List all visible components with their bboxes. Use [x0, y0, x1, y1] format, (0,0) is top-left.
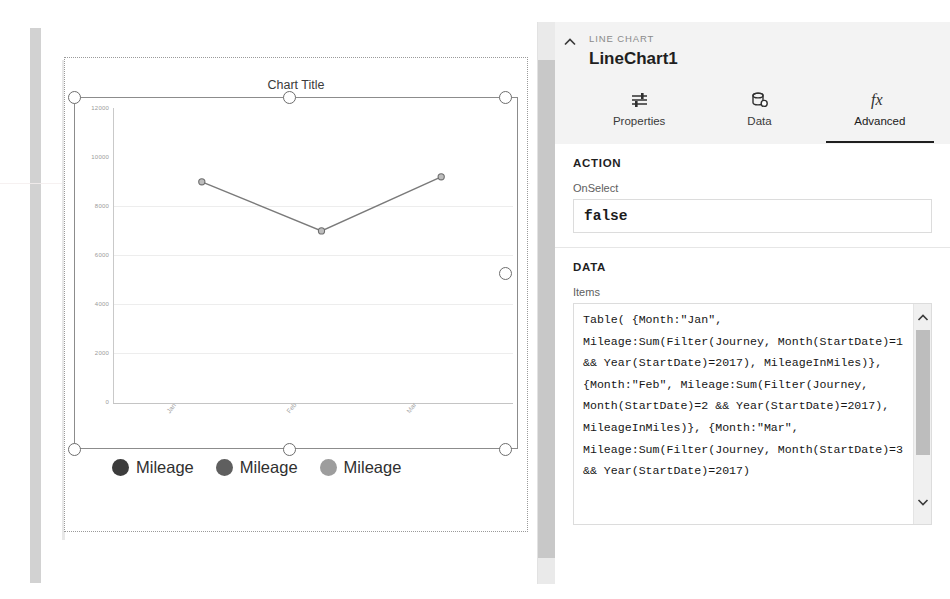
line-series-svg — [75, 100, 517, 410]
legend-item[interactable]: Mileage — [216, 458, 298, 477]
legend-label: Mileage — [136, 458, 194, 477]
left-scroll-rail[interactable] — [30, 28, 41, 583]
tab-label: Data — [747, 115, 771, 127]
resize-handle-bottom-center[interactable] — [283, 443, 296, 456]
database-icon — [749, 88, 769, 112]
resize-handle-top-left[interactable] — [68, 91, 81, 104]
fx-icon: fx — [867, 88, 893, 112]
chevron-up-icon[interactable] — [562, 34, 578, 50]
sliders-icon — [629, 88, 650, 112]
field-label-onselect: OnSelect — [555, 169, 950, 199]
properties-panel: LINE CHART LineChart1 — [537, 22, 950, 584]
app-root: Chart Title 12000 10000 8000 6000 4000 2… — [0, 0, 950, 599]
legend-item[interactable]: Mileage — [112, 458, 194, 477]
svg-text:fx: fx — [871, 91, 883, 109]
resize-handle-top-right[interactable] — [499, 91, 512, 104]
tab-advanced[interactable]: fx Advanced — [820, 86, 940, 144]
formula-scrollbar-track[interactable] — [913, 304, 931, 524]
section-heading-action: ACTION — [555, 144, 950, 169]
formula-scrollbar-thumb[interactable] — [916, 330, 930, 455]
panel-title: LineChart1 — [589, 49, 678, 69]
resize-handle-middle-right[interactable] — [499, 267, 512, 280]
resize-handle-bottom-left[interactable] — [68, 443, 81, 456]
legend-swatch-icon — [320, 459, 337, 476]
panel-kicker: LINE CHART — [589, 33, 654, 44]
onselect-input[interactable]: false — [573, 199, 932, 233]
field-label-items: Items — [555, 273, 950, 303]
panel-tabs: Properties Data — [579, 86, 940, 144]
scroll-up-icon[interactable] — [916, 310, 930, 326]
panel-body: LINE CHART LineChart1 — [555, 22, 950, 584]
resize-handle-bottom-right[interactable] — [499, 443, 512, 456]
resize-handle-top-center[interactable] — [283, 91, 296, 104]
tab-data[interactable]: Data — [699, 86, 819, 144]
tab-label: Advanced — [854, 115, 905, 127]
legend-label: Mileage — [240, 458, 298, 477]
section-heading-data: DATA — [555, 248, 950, 273]
chart-title: Chart Title — [74, 78, 518, 92]
legend-swatch-icon — [112, 459, 129, 476]
panel-scrollbar-track[interactable] — [538, 22, 555, 584]
scroll-down-icon[interactable] — [916, 494, 930, 510]
panel-scrollbar-thumb[interactable] — [538, 60, 555, 558]
legend-item[interactable]: Mileage — [320, 458, 402, 477]
panel-header: LINE CHART LineChart1 — [555, 22, 950, 144]
items-formula-text: Table( {Month:"Jan", Mileage:Sum(Filter(… — [583, 309, 905, 482]
chart-legend: Mileage Mileage Mileage — [112, 458, 401, 477]
chart-plot-area[interactable]: 12000 10000 8000 6000 4000 2000 0 Jan Fe… — [75, 100, 517, 410]
items-formula-editor[interactable]: Table( {Month:"Jan", Mileage:Sum(Filter(… — [573, 303, 932, 525]
tab-properties[interactable]: Properties — [579, 86, 699, 144]
legend-label: Mileage — [344, 458, 402, 477]
legend-swatch-icon — [216, 459, 233, 476]
tab-label: Properties — [613, 115, 665, 127]
